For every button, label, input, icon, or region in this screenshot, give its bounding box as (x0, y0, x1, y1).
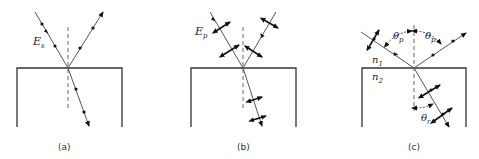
s-polarization-dot-icon (372, 37, 375, 40)
direction-arrow-icon (44, 29, 49, 34)
panel-a: Es (a) (17, 12, 122, 152)
s-polarization-dot-icon (40, 22, 43, 25)
caption-b: (b) (237, 142, 250, 152)
theta-p-label-right: θp (425, 30, 436, 44)
polarization-diagram: Es (a) Ep (b) (0, 0, 479, 159)
reflected-ray (414, 33, 466, 68)
reflected-ray (68, 12, 103, 68)
direction-arrow-icon (394, 52, 399, 56)
incident-ray (361, 32, 414, 68)
caption-c: (c) (408, 142, 420, 152)
refraction-angle-arc (416, 104, 433, 108)
refracted-ray (414, 68, 449, 127)
incident-ray (210, 12, 243, 68)
n1-label: n1 (372, 54, 383, 68)
p-polarization-arrow-icon (223, 45, 239, 55)
theta-p-label-left: θp (393, 30, 404, 44)
panel-b: Ep (b) (191, 12, 296, 152)
n2-label: n2 (372, 71, 383, 85)
reflected-ray (243, 12, 276, 68)
field-label-es: Es (32, 35, 45, 50)
s-polarization-dot-icon (53, 44, 56, 47)
direction-arrow-icon (261, 33, 265, 38)
s-polarization-dot-icon (441, 112, 444, 115)
s-polarization-dot-icon (451, 39, 454, 42)
caption-a: (a) (58, 142, 71, 152)
s-polarization-dot-icon (91, 26, 94, 29)
medium-boundary (17, 68, 122, 127)
s-polarization-dot-icon (82, 110, 85, 113)
p-polarization-arrow-icon (250, 97, 262, 101)
s-polarization-dot-icon (74, 87, 77, 90)
s-polarization-dot-icon (431, 53, 434, 56)
s-polarization-dot-icon (78, 46, 81, 49)
s-polarization-dot-icon (429, 88, 432, 91)
panel-c: θp θp θr n1 n2 (c) (361, 25, 466, 152)
refracted-ray (68, 68, 89, 126)
theta-r-label: θr (421, 112, 431, 126)
field-label-ep: Ep (194, 25, 208, 40)
